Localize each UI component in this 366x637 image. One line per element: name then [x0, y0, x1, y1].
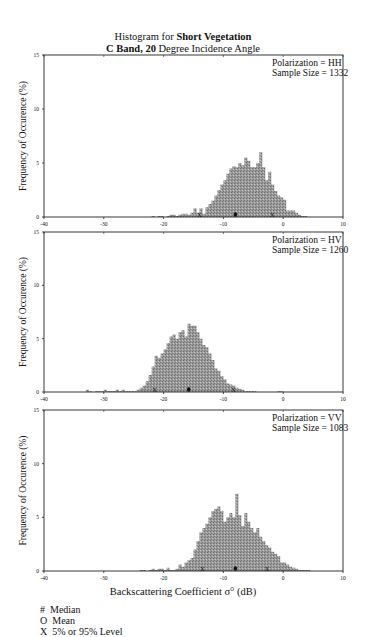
y-tick-label: 10	[34, 282, 40, 288]
histogram-bars	[140, 494, 310, 571]
x-tick-label: -30	[100, 396, 108, 402]
y-axis-label: Frequency of Occurence (%)	[18, 257, 29, 367]
x-tick-label: -20	[160, 221, 168, 227]
x-tick-label: -20	[160, 575, 168, 581]
x-tick-label: 0	[282, 221, 285, 227]
y-tick-label: 15	[34, 407, 40, 413]
y-tick-label: 10	[34, 106, 40, 112]
x-axis-label: Backscattering Coefficient σ° (dB)	[0, 586, 366, 597]
mean-marker	[234, 566, 238, 570]
percentile-marker-p95: X	[265, 565, 270, 572]
polarization-label: Polarization = VV	[272, 413, 342, 423]
y-tick-label: 15	[34, 52, 40, 58]
x-tick-label: -30	[100, 575, 108, 581]
histogram-bars	[86, 324, 283, 392]
y-tick-label: 0	[36, 389, 39, 395]
percentile-marker-p5: X	[152, 386, 157, 393]
percentile-marker-p95: X	[270, 211, 275, 218]
histogram-panels: 051015-40-30-20-10010Frequency of Occure…	[0, 0, 366, 637]
x-tick-label: -10	[220, 575, 228, 581]
histogram-panel-hv: 051015-40-30-20-10010Frequency of Occure…	[18, 229, 349, 402]
y-axis-label: Frequency of Occurence (%)	[18, 436, 29, 546]
y-tick-label: 5	[36, 514, 39, 520]
histogram-bars	[152, 152, 307, 217]
percentile-marker-p95: X	[231, 386, 236, 393]
x-tick-label: 0	[282, 396, 285, 402]
sample-size-label: Sample Size = 1260	[272, 245, 349, 255]
legend-percentile: X 5% or 95% Level	[40, 626, 123, 637]
histogram-panel-vv: 051015-40-30-20-10010Frequency of Occure…	[18, 407, 349, 581]
x-tick-label: -40	[40, 396, 48, 402]
y-tick-label: 10	[34, 461, 40, 467]
x-tick-label: -30	[100, 221, 108, 227]
y-tick-label: 15	[34, 229, 40, 235]
legend-mean: O Mean	[40, 615, 75, 626]
y-axis-label: Frequency of Occurence (%)	[18, 81, 29, 191]
x-tick-label: -20	[160, 396, 168, 402]
percentile-marker-p5: X	[200, 565, 205, 572]
x-tick-label: -40	[40, 575, 48, 581]
y-tick-label: 5	[36, 336, 39, 342]
polarization-label: Polarization = HH	[272, 58, 342, 68]
x-tick-label: -10	[220, 396, 228, 402]
x-tick-label: -10	[220, 221, 228, 227]
mean-marker	[234, 212, 238, 216]
mean-marker	[187, 387, 191, 391]
x-tick-label: 0	[282, 575, 285, 581]
legend-median: # Median	[40, 604, 81, 615]
x-tick-label: 10	[340, 396, 346, 402]
percentile-marker-p5: X	[197, 211, 202, 218]
plot-frame	[44, 410, 343, 571]
plot-frame	[44, 55, 343, 217]
sample-size-label: Sample Size = 1083	[272, 423, 349, 433]
sample-size-label: Sample Size = 1332	[272, 68, 349, 78]
y-tick-label: 0	[36, 568, 39, 574]
histogram-panel-hh: 051015-40-30-20-10010Frequency of Occure…	[18, 52, 349, 227]
x-tick-label: 10	[340, 221, 346, 227]
polarization-label: Polarization = HV	[272, 235, 342, 245]
y-tick-label: 5	[36, 160, 39, 166]
x-tick-label: -40	[40, 221, 48, 227]
x-tick-label: 10	[340, 575, 346, 581]
y-tick-label: 0	[36, 214, 39, 220]
